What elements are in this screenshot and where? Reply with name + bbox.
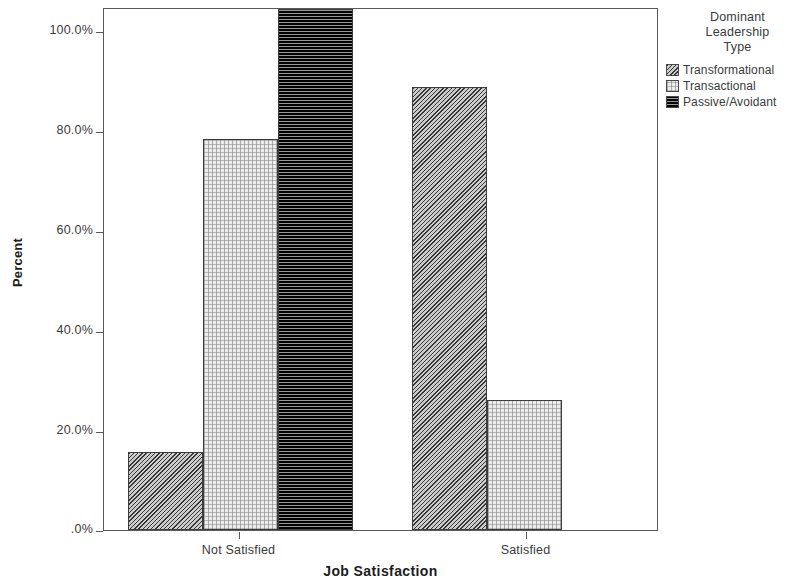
- y-axis-tick-mark: [96, 32, 103, 33]
- legend-item-passive-avoidant[interactable]: Passive/Avoidant: [666, 95, 809, 109]
- legend-label: Transactional: [683, 79, 756, 93]
- y-axis-tick-mark: [96, 332, 103, 333]
- legend-label: Transformational: [683, 63, 774, 77]
- legend-swatch-transactional-icon: [666, 80, 679, 92]
- y-axis-tick-40: 40.0%: [0, 332, 103, 333]
- y-axis-tick-mark: [96, 132, 103, 133]
- y-axis-tick-label: 40.0%: [57, 323, 93, 337]
- bar-chart: Percent 100.0% 80.0% 60.0% 40.0% 20.0% .…: [0, 0, 809, 584]
- legend-swatch-passive-avoidant-icon: [666, 96, 679, 108]
- legend-title-line-3: Type: [666, 40, 809, 55]
- legend-swatch-transformational-icon: [666, 64, 679, 76]
- bar-satisfied-transformational[interactable]: [412, 87, 487, 530]
- x-axis-tick-mark: [239, 532, 240, 539]
- legend-label: Passive/Avoidant: [683, 95, 776, 109]
- bar-not-satisfied-transformational[interactable]: [128, 452, 203, 530]
- bar-not-satisfied-passive-avoidant[interactable]: [278, 9, 353, 530]
- y-axis-tick-100: 100.0%: [0, 32, 103, 33]
- y-axis-tick-label: 100.0%: [49, 23, 93, 37]
- y-axis-tick-mark: [96, 531, 103, 532]
- y-axis-tick-0: .0%: [0, 531, 103, 532]
- bar-satisfied-transactional[interactable]: [487, 400, 562, 530]
- y-axis-tick-label: 60.0%: [57, 223, 93, 237]
- legend: Dominant Leadership Type Transformationa…: [666, 10, 809, 111]
- x-axis-tick-mark: [526, 532, 527, 539]
- legend-title-line-1: Dominant: [666, 10, 809, 25]
- y-axis-tick-80: 80.0%: [0, 132, 103, 133]
- x-axis-tick-label: Not Satisfied: [202, 543, 275, 557]
- plot-area: [103, 8, 658, 531]
- legend-title: Dominant Leadership Type: [666, 10, 809, 55]
- y-axis-tick-60: 60.0%: [0, 232, 103, 233]
- y-axis-tick-mark: [96, 432, 103, 433]
- y-axis-tick-20: 20.0%: [0, 432, 103, 433]
- bar-not-satisfied-transactional[interactable]: [203, 139, 278, 530]
- y-axis-tick-label: 80.0%: [57, 123, 93, 137]
- y-axis-title: Percent: [10, 218, 25, 308]
- legend-title-line-2: Leadership: [666, 25, 809, 40]
- y-axis-tick-label: 20.0%: [57, 423, 93, 437]
- y-axis-tick-mark: [96, 232, 103, 233]
- legend-item-transactional[interactable]: Transactional: [666, 79, 809, 93]
- x-axis-tick-label: Satisfied: [501, 543, 551, 557]
- x-axis-title: Job Satisfaction: [103, 563, 658, 579]
- legend-item-transformational[interactable]: Transformational: [666, 63, 809, 77]
- y-axis-tick-label: .0%: [71, 522, 93, 536]
